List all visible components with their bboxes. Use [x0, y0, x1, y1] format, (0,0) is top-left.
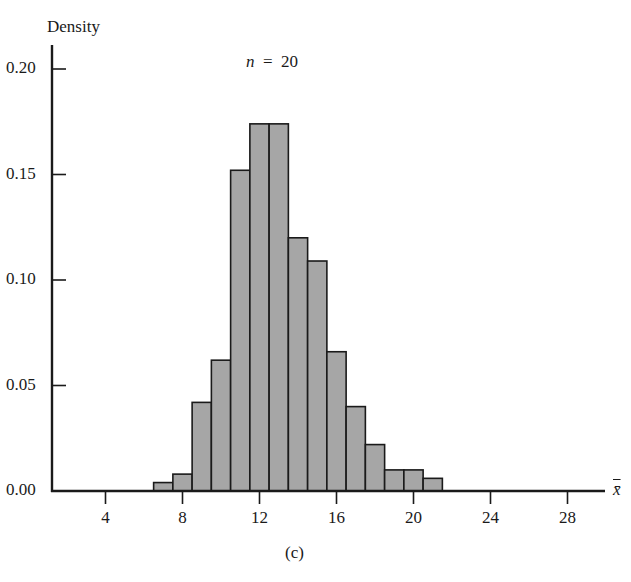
- x-tick-label: 24: [461, 508, 521, 528]
- x-tick-label: 4: [76, 508, 136, 528]
- y-tick-label: 0.00: [6, 480, 36, 500]
- histogram-bar: [404, 470, 423, 491]
- histogram-bar: [308, 261, 327, 491]
- histogram-bar: [423, 478, 442, 491]
- histogram-bar: [269, 124, 288, 491]
- equals-sign: =: [259, 52, 277, 71]
- x-axis-title: x̄: [613, 480, 621, 500]
- y-tick-label: 0.10: [6, 269, 36, 289]
- sample-size-variable: n: [246, 52, 255, 71]
- histogram-bar: [288, 238, 307, 491]
- histogram-bar: [154, 483, 173, 491]
- x-tick-label: 28: [538, 508, 598, 528]
- y-tick-label: 0.05: [6, 375, 36, 395]
- histogram-bar: [365, 445, 384, 491]
- figure-caption: (c): [285, 543, 304, 563]
- y-tick-label: 0.15: [6, 164, 36, 184]
- x-tick-label: 16: [307, 508, 367, 528]
- x-tick-label: 8: [153, 508, 213, 528]
- histogram-bar: [231, 170, 250, 491]
- x-tick-label: 12: [230, 508, 290, 528]
- histogram-bar: [250, 124, 269, 491]
- histogram-bar: [346, 407, 365, 491]
- sample-size-annotation: n = 20: [246, 52, 298, 72]
- histogram-bar: [211, 360, 230, 491]
- histogram-bars: [154, 124, 443, 491]
- histogram-bar: [327, 352, 346, 491]
- histogram-bar: [385, 470, 404, 491]
- histogram-bar: [192, 402, 211, 491]
- y-axis-title: Density: [47, 17, 100, 37]
- histogram-chart: [0, 0, 631, 582]
- x-tick-label: 20: [384, 508, 444, 528]
- histogram-bar: [173, 474, 192, 491]
- y-tick-label: 0.20: [6, 58, 36, 78]
- sample-size-value: 20: [281, 52, 298, 71]
